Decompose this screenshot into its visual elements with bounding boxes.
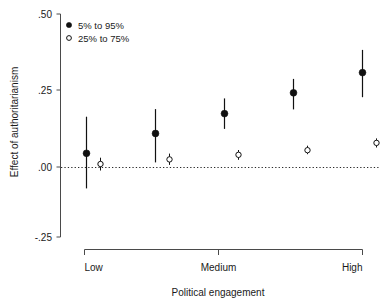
group-3: [221, 98, 241, 159]
y-tick-label-0: .50: [38, 9, 52, 20]
legend-label-1: 25% to 75%: [78, 33, 130, 44]
x-tick-label-medium: Medium: [201, 262, 237, 273]
point-filled-1: [83, 150, 90, 157]
x-axis-title: Political engagement: [172, 287, 265, 298]
point-filled-2: [152, 130, 159, 137]
point-filled-4: [290, 89, 297, 96]
group-5: [359, 50, 379, 148]
y-axis-line: [57, 14, 61, 237]
group-4: [290, 79, 310, 154]
point-filled-5: [359, 69, 366, 76]
legend-open-circle-icon: [67, 36, 72, 41]
point-filled-3: [221, 110, 228, 117]
x-axis-group: Low Medium High Political engagement: [85, 250, 363, 299]
y-tick-label-3: -.25: [35, 232, 53, 243]
x-tick-label-low: Low: [85, 262, 104, 273]
point-open-1: [98, 161, 103, 166]
point-open-3: [236, 152, 241, 157]
point-open-2: [167, 157, 172, 162]
chart-figure: .50 .25 .00 -.25 Effect of authoritarian…: [0, 0, 387, 304]
y-axis-title: Effect of authoritarianism: [9, 67, 20, 177]
legend-label-0: 5% to 95%: [78, 20, 124, 31]
y-axis-group: .50 .25 .00 -.25 Effect of authoritarian…: [9, 9, 61, 243]
effect-of-authoritarianism-plot: .50 .25 .00 -.25 Effect of authoritarian…: [0, 0, 387, 304]
group-2: [152, 109, 172, 165]
legend: 5% to 95% 25% to 75%: [66, 20, 129, 44]
point-open-5: [374, 140, 379, 145]
legend-filled-circle-icon: [66, 22, 71, 27]
x-tick-label-high: High: [342, 262, 363, 273]
x-axis-bracket: [85, 250, 363, 256]
point-open-4: [305, 148, 310, 153]
y-tick-label-2: .00: [38, 162, 52, 173]
y-tick-label-1: .25: [38, 85, 52, 96]
group-1: [83, 117, 103, 189]
